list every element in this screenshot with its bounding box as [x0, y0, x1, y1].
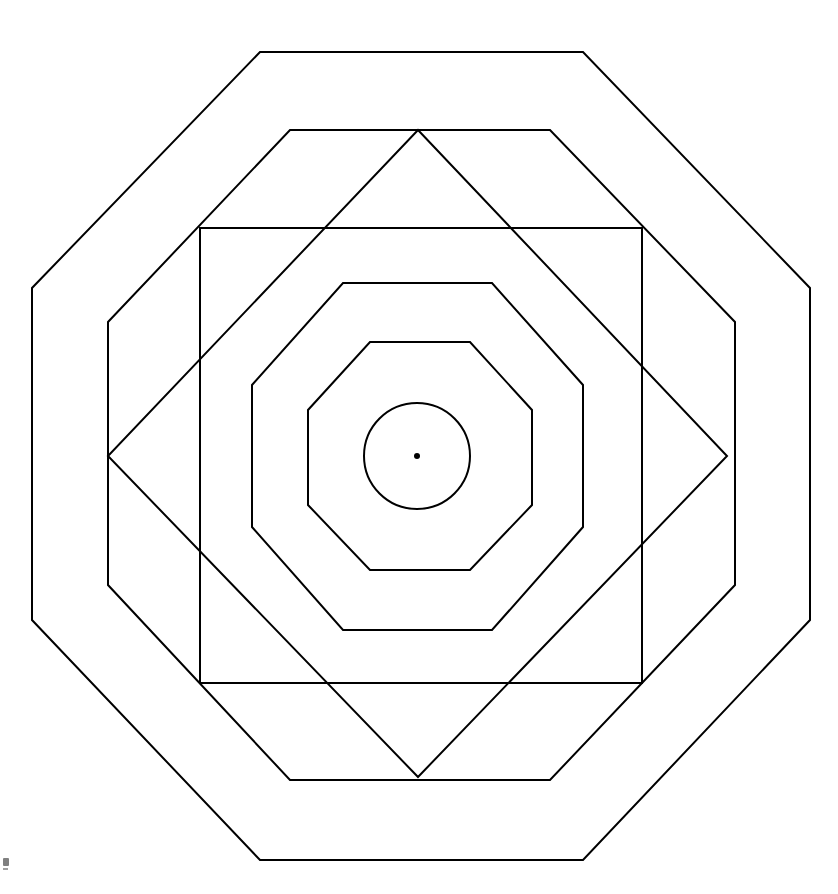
geometric-figure-svg: [0, 0, 838, 894]
figure-canvas: [0, 0, 838, 894]
center-dot: [414, 453, 420, 459]
corner-watermark-icon: [2, 858, 12, 872]
canvas-background: [0, 0, 838, 894]
corner-watermark-foot: [3, 868, 8, 870]
corner-watermark-body: [3, 858, 9, 866]
